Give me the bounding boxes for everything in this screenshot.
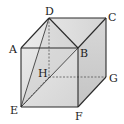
label-A: A bbox=[8, 43, 18, 56]
label-D: D bbox=[45, 5, 54, 18]
label-C: C bbox=[108, 11, 116, 24]
label-B: B bbox=[80, 47, 88, 60]
label-E: E bbox=[10, 104, 18, 117]
cube-diagram: D C A B H G E F bbox=[0, 0, 124, 124]
label-G: G bbox=[109, 72, 118, 85]
label-F: F bbox=[75, 110, 83, 123]
label-H: H bbox=[38, 67, 48, 80]
